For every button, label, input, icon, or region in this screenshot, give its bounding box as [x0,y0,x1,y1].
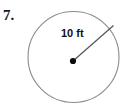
figure-canvas: 7. 10 ft [0,0,127,107]
radius-measurement-label: 10 ft [61,27,84,40]
circle-figure-diagram [0,0,127,107]
circle-outline [28,12,119,103]
center-point-dot [70,58,76,64]
